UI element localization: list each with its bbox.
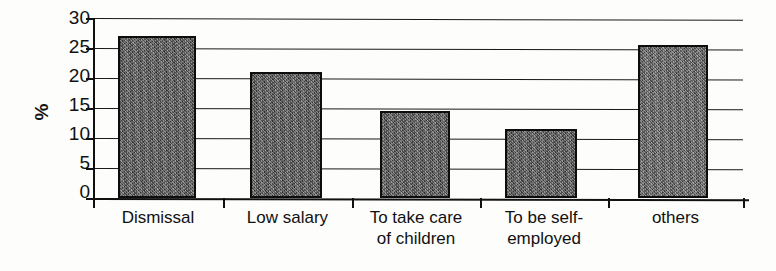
y-tick-label-30: 30 [44, 8, 90, 27]
x-label-take-care-line2: of children [352, 228, 480, 249]
y-tick-mark-30 [86, 18, 95, 20]
bar-others [638, 45, 708, 198]
y-tick-mark-10 [86, 138, 95, 140]
y-tick-label-0: 0 [44, 182, 90, 201]
x-label-low-salary: Low salary [223, 207, 352, 228]
plot-area [93, 18, 743, 198]
x-label-dismissal-line1: Dismissal [122, 208, 195, 227]
bar-self-employed [505, 129, 577, 198]
y-tick-label-5: 5 [44, 153, 90, 172]
bar-chart: % 30 25 20 15 10 5 0 [0, 0, 776, 271]
bar-dismissal [118, 36, 196, 198]
bar-low-salary [250, 72, 322, 198]
y-tick-mark-25 [86, 48, 95, 50]
x-label-low-salary-line1: Low salary [247, 208, 328, 227]
y-tick-label-20: 20 [44, 66, 90, 85]
x-label-dismissal: Dismissal [93, 207, 223, 228]
y-tick-mark-5 [86, 168, 95, 170]
gridline-30 [93, 18, 743, 21]
y-tick-mark-20 [86, 78, 95, 80]
y-tick-label-15: 15 [44, 95, 90, 114]
x-axis-line [93, 198, 749, 201]
x-axis-category-labels: Dismissal Low salary To take care of chi… [93, 207, 753, 269]
x-label-self-employed: To be self- employed [480, 207, 608, 249]
bar-take-care [380, 111, 450, 198]
x-label-self-employed-line1: To be self- [505, 208, 583, 227]
y-tick-label-25: 25 [44, 37, 90, 56]
x-label-self-employed-line2: employed [480, 228, 608, 249]
x-label-others-line1: others [652, 208, 699, 227]
x-label-others: others [608, 207, 743, 228]
x-label-take-care: To take care of children [352, 207, 480, 249]
x-label-take-care-line1: To take care [370, 208, 463, 227]
y-tick-label-10: 10 [44, 124, 90, 143]
y-axis-tick-labels: 30 25 20 15 10 5 0 [44, 0, 90, 210]
y-tick-mark-15 [86, 108, 95, 110]
